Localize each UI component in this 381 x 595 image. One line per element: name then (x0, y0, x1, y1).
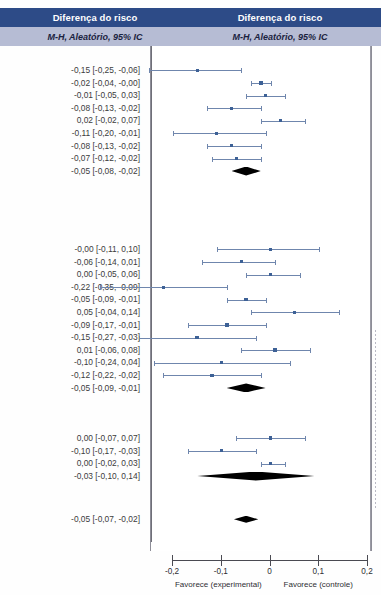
confidence-interval-cap (261, 157, 262, 162)
confidence-interval-cap (251, 310, 252, 315)
summary-effect-label: -0,05 [-0,08, -0,02] (0, 165, 148, 178)
confidence-interval-cap (271, 81, 272, 86)
axis-tick (367, 555, 368, 566)
confidence-interval-cap (241, 68, 242, 73)
study-effect-label: -0,15 [-0,27, -0,03] (0, 331, 148, 344)
confidence-interval-cap (154, 361, 155, 366)
plot-area (151, 46, 371, 551)
summary-effect-label: -0,05 [-0,09, -0,01] (0, 382, 148, 395)
confidence-interval-cap (236, 436, 237, 441)
study-effect-label: -0,15 [-0,25, -0,06] (0, 64, 148, 77)
study-effect-label: 0,05 [-0,04, 0,14] (0, 306, 148, 319)
confidence-interval-line (173, 133, 266, 134)
study-effect-label: 0,00 [-0,07, 0,07] (0, 432, 148, 445)
header-title-band: Diferença do risco Diferença do risco (0, 8, 381, 27)
study-effect-label: 0,00 [-0,02, 0,03] (0, 457, 148, 470)
study-point-estimate-marker (293, 311, 296, 314)
study-point-estimate-marker (230, 144, 233, 147)
x-axis: -0,2-0,100,10,2 Favorece (experimental) … (150, 554, 370, 595)
study-effect-label: 0,01 [-0,06, 0,08] (0, 344, 148, 357)
summary-diamond (197, 472, 314, 481)
confidence-interval-cap (256, 449, 257, 454)
study-effect-label: -0,11 [-0,20, -0,01] (0, 127, 148, 140)
confidence-interval-cap (310, 348, 311, 353)
header-left-title: Diferença do risco (0, 8, 190, 27)
confidence-interval-cap (290, 361, 291, 366)
confidence-interval-cap (246, 273, 247, 278)
confidence-interval-cap (149, 68, 150, 73)
study-effect-label: -0,05 [-0,09, -0,01] (0, 293, 148, 306)
confidence-interval-line (261, 121, 305, 122)
study-point-estimate-marker (235, 157, 238, 160)
axis-tick (221, 555, 222, 566)
confidence-interval-cap (212, 157, 213, 162)
confidence-interval-cap (305, 119, 306, 124)
study-point-estimate-marker (269, 273, 272, 276)
summary-diamond (227, 383, 266, 392)
study-effect-label: -0,06 [-0,14, 0,01] (0, 256, 148, 269)
study-point-estimate-marker (210, 374, 213, 377)
null-effect-line (151, 46, 152, 542)
confidence-interval-line (207, 108, 261, 109)
confidence-interval-cap (139, 336, 140, 341)
study-point-estimate-marker (269, 462, 273, 466)
confidence-interval-cap (217, 247, 218, 252)
header-right-subtitle: M-H, Aleatório, 95% IC (190, 27, 370, 46)
confidence-interval-cap (339, 310, 340, 315)
study-point-estimate-marker (220, 449, 223, 452)
confidence-interval-cap (261, 106, 262, 111)
confidence-interval-cap (251, 81, 252, 86)
plot-frame (150, 46, 372, 551)
confidence-interval-cap (305, 436, 306, 441)
axis-tick (172, 555, 173, 566)
axis-tick (270, 555, 271, 566)
confidence-interval-cap (188, 449, 189, 454)
confidence-interval-cap (173, 131, 174, 136)
confidence-interval-cap (300, 273, 301, 278)
axis-tick-label: 0,1 (313, 567, 324, 576)
study-effect-label: -0,00 [-0,11, 0,10] (0, 243, 148, 256)
study-point-estimate-marker (259, 81, 263, 85)
study-effect-label: -0,08 [-0,13, -0,02] (0, 140, 148, 153)
confidence-interval-cap (275, 260, 276, 265)
confidence-interval-line (149, 70, 242, 71)
confidence-interval-cap (266, 298, 267, 303)
header-left-subtitle: M-H, Aleatório, 95% IC (0, 27, 190, 46)
study-effect-label: -0,01 [-0,05, 0,03] (0, 89, 148, 102)
confidence-interval-cap (261, 144, 262, 149)
study-point-estimate-marker (196, 69, 199, 72)
study-point-estimate-marker (240, 260, 243, 263)
confidence-interval-cap (266, 323, 267, 328)
study-point-estimate-marker (244, 298, 247, 301)
study-effect-label: -0,12 [-0,22, -0,02] (0, 369, 148, 382)
confidence-interval-line (246, 275, 300, 276)
confidence-interval-cap (256, 336, 257, 341)
axis-tick-label: 0,2 (361, 567, 372, 576)
axis-caption-left: Favorece (experimental) (175, 580, 262, 589)
confidence-interval-line (207, 146, 261, 147)
confidence-interval-cap (246, 94, 247, 99)
confidence-interval-cap (188, 323, 189, 328)
confidence-interval-cap (266, 131, 267, 136)
study-effect-label: -0,10 [-0,17, -0,03] (0, 445, 148, 458)
study-effect-label: -0,09 [-0,17, -0,01] (0, 319, 148, 332)
header-subtitle-band: M-H, Aleatório, 95% IC M-H, Aleatório, 9… (0, 27, 381, 46)
confidence-interval-cap (163, 373, 164, 378)
study-point-estimate-marker (230, 107, 233, 110)
axis-tick-label: -0,1 (214, 567, 228, 576)
axis-caption-right: Favorece (controle) (284, 580, 353, 589)
study-point-estimate-marker (273, 348, 277, 352)
study-point-estimate-marker (225, 323, 229, 327)
study-point-estimate-marker (195, 336, 199, 340)
axis-tick (318, 555, 319, 566)
study-point-estimate-marker (269, 248, 272, 251)
study-effect-label: -0,07 [-0,12, -0,02] (0, 152, 148, 165)
study-effect-label: -0,10 [-0,24, 0,04] (0, 356, 148, 369)
study-point-estimate-marker (215, 132, 218, 135)
study-point-estimate-marker (220, 361, 223, 364)
confidence-interval-cap (207, 106, 208, 111)
study-point-estimate-marker (162, 286, 165, 289)
confidence-interval-cap (227, 298, 228, 303)
study-point-estimate-marker (264, 94, 268, 98)
confidence-interval-cap (241, 348, 242, 353)
